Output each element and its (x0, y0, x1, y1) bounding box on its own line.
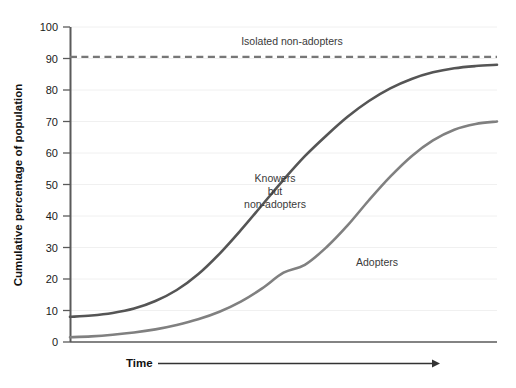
y-tick-label-60: 60 (46, 147, 58, 159)
y-tick-label-30: 30 (46, 242, 58, 254)
chart-container: 100 90 80 70 60 50 40 30 20 10 0 Cumulat… (0, 0, 516, 388)
annotation-knowers-line-1: Knowers (255, 172, 296, 184)
x-axis-title: Time (126, 357, 153, 369)
annotation-isolated-non-adopters: Isolated non-adopters (241, 35, 343, 47)
annotation-knowers-line-2: but (268, 185, 283, 197)
y-axis-title: Cumulative percentage of population (12, 84, 24, 287)
y-tick-label-100: 100 (40, 21, 58, 33)
y-tick-label-10: 10 (46, 305, 58, 317)
y-tick-label-70: 70 (46, 116, 58, 128)
y-tick-label-40: 40 (46, 210, 58, 222)
annotation-adopters: Adopters (356, 256, 398, 268)
diffusion-of-innovation-chart: 100 90 80 70 60 50 40 30 20 10 0 Cumulat… (0, 0, 516, 388)
y-tick-label-50: 50 (46, 179, 58, 191)
annotation-knowers-line-3: non-adopters (244, 198, 306, 210)
y-tick-label-80: 80 (46, 84, 58, 96)
y-tick-label-90: 90 (46, 53, 58, 65)
y-tick-label-0: 0 (52, 336, 58, 348)
y-tick-label-20: 20 (46, 273, 58, 285)
